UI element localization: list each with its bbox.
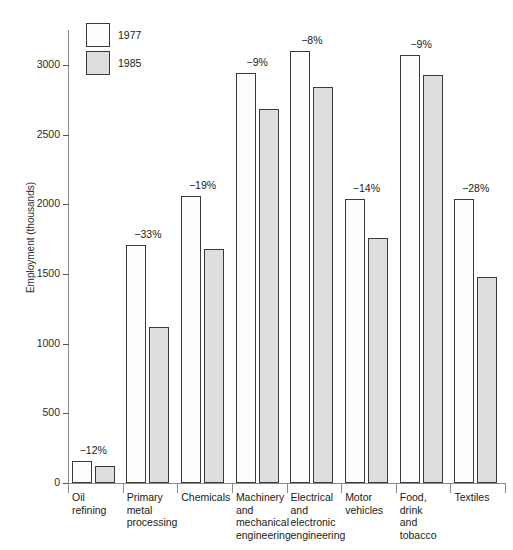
category-label-line: engineering xyxy=(236,529,287,542)
category-label-line: engineering xyxy=(291,529,342,542)
category-label-line: mechanical xyxy=(236,516,287,529)
bar-1985-2 xyxy=(149,327,169,483)
category-label-line: tobacco xyxy=(400,529,451,542)
bar-1985-7 xyxy=(423,75,443,483)
category-label-line: and xyxy=(400,516,451,529)
category-label-line: Electrical xyxy=(291,491,342,504)
category-separator xyxy=(123,483,124,493)
category-label-line: and xyxy=(236,504,287,517)
category-label: Textiles xyxy=(454,491,505,504)
bar-annotation: −12% xyxy=(64,445,123,456)
bar-annotation: −19% xyxy=(173,180,232,191)
bar-annotation: −9% xyxy=(392,39,451,50)
category-separator xyxy=(450,483,451,493)
category-label-line: and xyxy=(291,504,342,517)
category-label-line: Machinery xyxy=(236,491,287,504)
bar-annotation: −9% xyxy=(228,57,287,68)
category-label: Motorvehicles xyxy=(345,491,396,516)
category-separator xyxy=(177,483,178,493)
bar-1977-6 xyxy=(345,199,365,483)
category-label-line: Chemicals xyxy=(181,491,232,504)
category-label-line: Food, xyxy=(400,491,451,504)
category-label-line: refining xyxy=(72,504,123,517)
category-label: Machineryandmechanicalengineering xyxy=(236,491,287,541)
category-label-line: drink xyxy=(400,504,451,517)
category-separator xyxy=(232,483,233,493)
category-label: Electricalandelectronicengineering xyxy=(291,491,342,541)
bar-annotation: −28% xyxy=(446,183,505,194)
category-label-line: Primary xyxy=(127,491,178,504)
bar-1977-5 xyxy=(290,51,310,483)
category-label-line: Motor xyxy=(345,491,396,504)
bar-1985-3 xyxy=(204,249,224,483)
category-label-line: metal xyxy=(127,504,178,517)
bar-1985-1 xyxy=(95,466,115,483)
bar-1985-5 xyxy=(313,87,333,483)
category-separator xyxy=(341,483,342,493)
bar-1977-4 xyxy=(236,73,256,483)
bar-1977-7 xyxy=(400,55,420,483)
category-label-line: vehicles xyxy=(345,504,396,517)
category-label-line: Oil xyxy=(72,491,123,504)
y-tick-label: 2500 xyxy=(16,129,60,140)
y-axis-title: Employment (thousands) xyxy=(25,158,36,318)
category-separator xyxy=(68,483,69,493)
bar-1977-1 xyxy=(72,461,92,483)
bar-annotation: −8% xyxy=(282,35,341,46)
y-tick-label: 2000 xyxy=(16,198,60,209)
bar-annotation: −33% xyxy=(118,229,177,240)
category-label: Chemicals xyxy=(181,491,232,504)
y-tick-label: 500 xyxy=(16,407,60,418)
category-label: Oilrefining xyxy=(72,491,123,516)
category-separator xyxy=(505,483,506,493)
category-separator xyxy=(287,483,288,493)
category-label: Food,drinkandtobacco xyxy=(400,491,451,541)
bar-1985-4 xyxy=(259,109,279,483)
bar-1977-2 xyxy=(126,245,146,483)
bar-1977-8 xyxy=(454,199,474,483)
y-tick-label: 1500 xyxy=(16,268,60,279)
bar-1985-8 xyxy=(477,277,497,483)
category-label: Primarymetalprocessing xyxy=(127,491,178,529)
category-label-line: electronic xyxy=(291,516,342,529)
y-tick-label: 0 xyxy=(16,477,60,488)
bar-1977-3 xyxy=(181,196,201,483)
bar-chart: Employment (thousands) 05001000150020002… xyxy=(0,0,513,550)
bar-1985-6 xyxy=(368,238,388,483)
bar-annotation: −14% xyxy=(337,183,396,194)
plot-area: −12%−33%−19%−9%−8%−14%−9%−28% xyxy=(68,30,505,483)
category-label-line: Textiles xyxy=(454,491,505,504)
category-separator xyxy=(396,483,397,493)
y-tick-label: 3000 xyxy=(16,59,60,70)
y-tick-label: 1000 xyxy=(16,338,60,349)
category-label-line: processing xyxy=(127,516,178,529)
